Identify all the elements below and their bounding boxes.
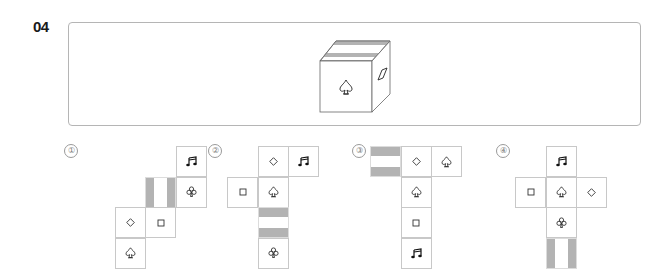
net-face-square-outline: [515, 177, 546, 208]
net-face-spade-outline: [546, 177, 577, 208]
stripe: [568, 239, 576, 268]
stripe: [259, 228, 288, 237]
spade-icon: [125, 247, 136, 259]
net-face-spade-outline: [431, 146, 462, 177]
net-face-square-outline: [145, 207, 176, 238]
music-note-icon: [186, 156, 197, 167]
club-icon: [556, 217, 567, 229]
net-face-horizontal-stripes: [258, 207, 289, 238]
stripe: [259, 208, 288, 217]
option-1-label[interactable]: ①: [64, 144, 78, 158]
stripe: [371, 147, 400, 156]
net-face-horizontal-stripes: [370, 146, 401, 177]
option-3-label[interactable]: ③: [352, 144, 366, 158]
square-icon: [412, 219, 420, 227]
net-face-club-outline: [546, 207, 577, 238]
net-face-music-note: [288, 146, 319, 177]
spade-icon: [441, 156, 452, 168]
net-face-vertical-stripes: [145, 177, 176, 208]
stripe: [547, 239, 555, 268]
stripe: [146, 178, 154, 207]
net-face-diamond-outline: [401, 146, 432, 177]
spade-icon: [268, 186, 279, 198]
net-face-square-outline: [227, 177, 258, 208]
diamond-icon: [269, 157, 278, 166]
square-icon: [527, 188, 535, 196]
option-2-label[interactable]: ②: [208, 144, 222, 158]
music-note-icon: [411, 248, 422, 259]
cube-top-stripe-back: [333, 41, 390, 45]
net-face-club-outline: [176, 177, 207, 208]
square-icon: [157, 219, 165, 227]
diamond-icon: [412, 157, 421, 166]
club-icon: [268, 247, 279, 259]
cube-top-stripe-front: [323, 53, 380, 57]
net-face-diamond-outline: [115, 207, 146, 238]
net-face-music-note: [176, 146, 207, 177]
spade-icon: [556, 186, 567, 198]
spade-icon: [411, 186, 422, 198]
diamond-icon: [126, 218, 135, 227]
cube-figure: [315, 36, 395, 116]
question-number: 04: [33, 18, 49, 35]
net-face-spade-outline: [115, 238, 146, 269]
club-icon: [186, 186, 197, 198]
music-note-icon: [556, 156, 567, 167]
net-face-diamond-outline: [258, 146, 289, 177]
net-face-vertical-stripes: [546, 238, 577, 269]
square-icon: [239, 188, 247, 196]
music-note-icon: [298, 156, 309, 167]
option-4-label[interactable]: ④: [496, 144, 510, 158]
net-face-club-outline: [258, 238, 289, 269]
diamond-icon: [587, 188, 596, 197]
net-face-spade-outline: [401, 177, 432, 208]
stripe: [371, 167, 400, 176]
stripe: [167, 178, 175, 207]
net-face-spade-outline: [258, 177, 289, 208]
net-face-diamond-outline: [576, 177, 607, 208]
net-face-square-outline: [401, 207, 432, 238]
net-face-music-note: [401, 238, 432, 269]
net-face-music-note: [546, 146, 577, 177]
